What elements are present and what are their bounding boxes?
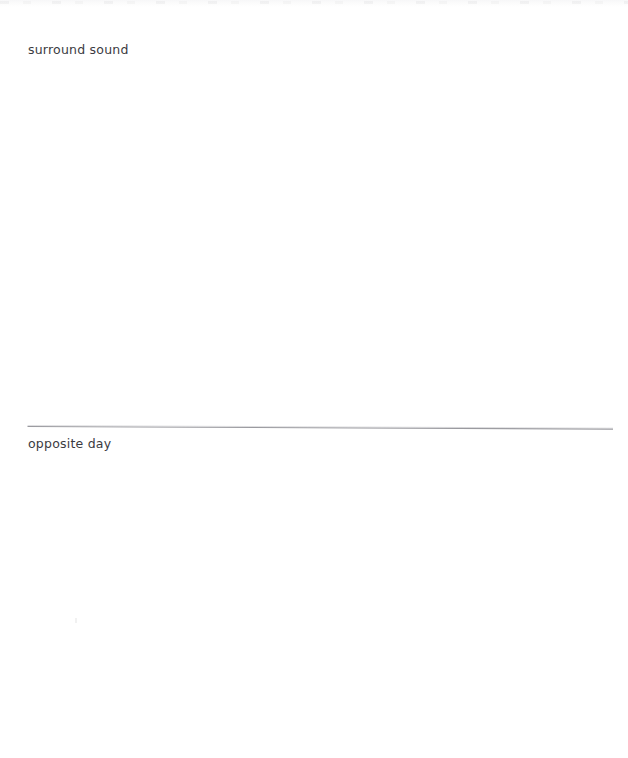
scan-edge-noise: [0, 0, 628, 7]
text-opposite-day: opposite day: [28, 438, 111, 451]
text-surround-sound: surround sound: [28, 44, 129, 57]
horizontal-rule-svg: [27, 420, 614, 434]
scanned-page: surround sound opposite day: [0, 0, 628, 758]
scan-speck-artifact: [75, 618, 77, 623]
horizontal-rule: [27, 420, 614, 434]
